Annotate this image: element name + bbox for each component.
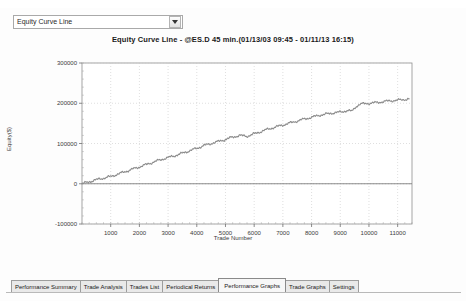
tab-label: Trade Analysis: [84, 282, 123, 292]
panel-top-spacer: [0, 0, 472, 8]
tab-trade-graphs[interactable]: Trade Graphs: [285, 280, 330, 292]
tab-bar: Performance SummaryTrade AnalysisTrades …: [0, 271, 472, 293]
tab-label: Periodical Returns: [166, 282, 215, 292]
tab-performance-summary[interactable]: Performance Summary: [11, 280, 81, 292]
performance-graphs-panel: Equity Curve Line Equity Curve Line - @E…: [0, 0, 472, 301]
tab-label: Trade Graphs: [289, 282, 326, 292]
graph-type-select-value: Equity Curve Line: [14, 16, 169, 28]
equity-curve-chart: Equity Curve Line - @ES.D 45 min.(01/13/…: [0, 32, 466, 254]
tab-trade-analysis[interactable]: Trade Analysis: [80, 280, 127, 292]
graph-type-select[interactable]: Equity Curve Line: [13, 15, 183, 29]
tab-label: Settings: [333, 282, 355, 292]
tab-label: Trades List: [130, 282, 159, 292]
svg-text:-100000: -100000: [55, 221, 78, 227]
chart-y-axis-label: Equity($): [6, 109, 12, 169]
chart-x-axis-label: Trade Number: [0, 235, 466, 241]
svg-text:0: 0: [74, 181, 78, 187]
svg-text:300000: 300000: [57, 60, 78, 66]
svg-text:100000: 100000: [57, 141, 78, 147]
tab-bar-divider: [6, 292, 461, 293]
tab-trades-list[interactable]: Trades List: [126, 280, 163, 292]
tab-settings[interactable]: Settings: [329, 280, 359, 292]
tab-periodical-returns[interactable]: Periodical Returns: [162, 280, 219, 292]
tab-list: Performance SummaryTrade AnalysisTrades …: [11, 278, 358, 292]
tab-label: Performance Summary: [15, 282, 77, 292]
svg-text:200000: 200000: [57, 100, 78, 106]
chart-plot-area: -100000010000020000030000010002000300040…: [0, 32, 466, 237]
panel-right-spacer: [466, 0, 472, 301]
tab-label: Performance Graphs: [224, 281, 280, 291]
tab-performance-graphs[interactable]: Performance Graphs: [218, 278, 286, 292]
chevron-down-icon[interactable]: [169, 16, 181, 28]
